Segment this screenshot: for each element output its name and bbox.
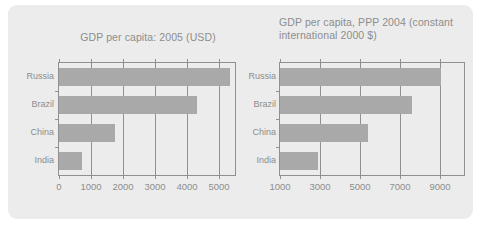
category-label-china: China bbox=[248, 127, 276, 137]
figure-card: GDP per capita: 2005 (USD) 0100020003000… bbox=[8, 5, 473, 219]
x-axis-tick-label: 3000 bbox=[300, 181, 340, 192]
bar-india bbox=[59, 152, 82, 170]
x-axis-tick bbox=[187, 175, 188, 179]
x-axis-tick bbox=[320, 59, 321, 63]
x-axis-tick bbox=[123, 59, 124, 63]
x-axis-tick-label: 9000 bbox=[420, 181, 460, 192]
bar-india bbox=[280, 152, 318, 170]
x-axis-tick bbox=[219, 59, 220, 63]
x-axis-tick bbox=[123, 175, 124, 179]
x-axis-tick bbox=[360, 175, 361, 179]
x-axis-tick bbox=[320, 175, 321, 179]
x-axis-tick bbox=[59, 175, 60, 179]
x-axis-tick bbox=[91, 175, 92, 179]
x-axis-tick bbox=[440, 175, 441, 179]
x-axis-tick-label: 5000 bbox=[199, 181, 239, 192]
x-axis-tick bbox=[91, 59, 92, 63]
x-axis-tick bbox=[187, 59, 188, 63]
chart-title: GDP per capita: 2005 (USD) bbox=[58, 31, 238, 44]
y-axis-tick bbox=[276, 119, 280, 120]
x-axis-tick bbox=[155, 59, 156, 63]
y-axis-tick bbox=[276, 91, 280, 92]
category-label-russia: Russia bbox=[248, 71, 276, 81]
chart-gdp-per-capita-ppp-2004: GDP per capita, PPP 2004 (constant inter… bbox=[248, 5, 473, 219]
category-label-india: India bbox=[16, 155, 54, 165]
x-axis-tick bbox=[400, 59, 401, 63]
x-axis-tick-label: 5000 bbox=[340, 181, 380, 192]
x-axis-tick bbox=[440, 59, 441, 63]
category-label-brazil: Brazil bbox=[16, 99, 54, 109]
y-axis-tick bbox=[55, 147, 59, 148]
category-label-russia: Russia bbox=[16, 71, 54, 81]
bar-china bbox=[280, 124, 368, 142]
x-axis-tick-label: 7000 bbox=[380, 181, 420, 192]
x-axis-tick bbox=[400, 175, 401, 179]
category-label-brazil: Brazil bbox=[248, 99, 276, 109]
x-axis-tick bbox=[280, 59, 281, 63]
x-axis-tick bbox=[59, 59, 60, 63]
x-axis-tick bbox=[219, 175, 220, 179]
x-axis-tick bbox=[280, 175, 281, 179]
x-axis-tick bbox=[360, 59, 361, 63]
plot-area bbox=[58, 62, 236, 176]
chart-title: GDP per capita, PPP 2004 (constant inter… bbox=[279, 16, 469, 42]
bar-brazil bbox=[59, 96, 197, 114]
category-label-india: India bbox=[248, 155, 276, 165]
x-axis-tick-label: 1000 bbox=[260, 181, 300, 192]
x-axis-tick bbox=[155, 175, 156, 179]
y-axis-tick bbox=[276, 147, 280, 148]
plot-area bbox=[279, 62, 465, 176]
bar-russia bbox=[280, 68, 441, 86]
chart-gdp-per-capita-2005: GDP per capita: 2005 (USD) 0100020003000… bbox=[14, 5, 248, 219]
y-axis-tick bbox=[55, 91, 59, 92]
y-axis-tick bbox=[55, 119, 59, 120]
category-label-china: China bbox=[16, 127, 54, 137]
bar-russia bbox=[59, 68, 230, 86]
bar-brazil bbox=[280, 96, 412, 114]
bar-china bbox=[59, 124, 115, 142]
